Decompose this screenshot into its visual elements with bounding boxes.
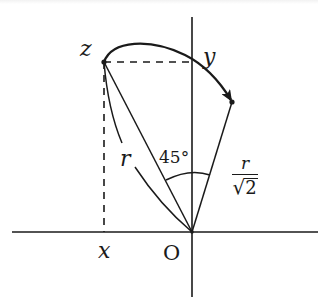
radicand: 2 (244, 178, 257, 197)
point-origin (190, 230, 194, 234)
diagram-canvas: z y r 45° x O r √ 2 (0, 0, 318, 300)
label-x: x (98, 240, 110, 262)
fraction-denominator: √ 2 (232, 175, 257, 197)
fraction-numerator: r (241, 155, 249, 174)
label-z: z (80, 38, 92, 60)
label-origin: O (163, 243, 180, 264)
label-y: y (203, 46, 215, 68)
label-r: r (120, 148, 131, 170)
angle-arc (166, 172, 210, 180)
label-r-over-sqrt2: r √ 2 (232, 155, 258, 197)
radius-arc-upper (104, 62, 122, 143)
point-z (101, 59, 106, 64)
point-end (229, 99, 234, 104)
segment-o-end (192, 102, 232, 232)
label-angle: 45° (159, 149, 189, 166)
